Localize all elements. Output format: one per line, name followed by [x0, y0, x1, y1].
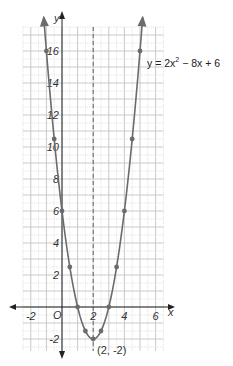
origin-label: O: [53, 309, 62, 321]
svg-text:2: 2: [52, 269, 59, 281]
parabola-chart: -2246-2246810121416 y = 2x2 − 8x + 6 (2,…: [0, 0, 233, 366]
x-axis-label: x: [167, 306, 174, 318]
data-point: [83, 329, 88, 334]
data-point: [122, 209, 127, 214]
data-point: [60, 209, 65, 214]
equation-label: y = 2x2 − 8x + 6: [147, 56, 220, 69]
svg-text:-2: -2: [26, 310, 36, 322]
svg-text:6: 6: [153, 310, 160, 322]
data-point: [67, 265, 72, 270]
data-point: [91, 337, 96, 342]
data-point: [75, 305, 80, 310]
data-point: [130, 137, 135, 142]
vertex-label: (2, -2): [97, 344, 126, 356]
data-point: [44, 49, 49, 54]
svg-text:4: 4: [121, 310, 127, 322]
svg-text:10: 10: [47, 141, 60, 153]
data-point: [52, 137, 57, 142]
data-point: [138, 49, 143, 54]
svg-text:6: 6: [53, 205, 60, 217]
svg-text:y = 2x2 − 8x + 6: y = 2x2 − 8x + 6: [147, 56, 220, 69]
svg-text:-2: -2: [49, 333, 59, 345]
svg-text:4: 4: [53, 237, 59, 249]
data-point: [106, 305, 111, 310]
data-point: [114, 265, 119, 270]
data-point: [99, 329, 104, 334]
svg-text:2: 2: [89, 310, 96, 322]
